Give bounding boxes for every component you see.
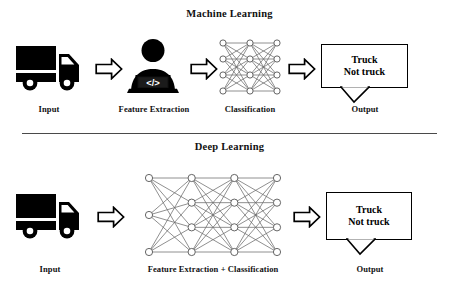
deep-learning-title: Deep Learning [0,141,459,152]
section-divider [22,133,437,134]
output-speech-box: Truck Not truck [321,44,408,88]
output-line-2: Not truck [344,66,385,78]
neural-network-icon [218,38,282,100]
svg-text:</>: </> [146,77,160,88]
arrow-right-icon [95,58,123,84]
figure-canvas: Machine Learning </> [0,0,459,289]
output-line-1: Truck [352,54,378,66]
network-edges [223,43,277,91]
arrow-right-icon [293,206,321,232]
stage-label-input-dl: Input [0,264,100,274]
arrow-right-icon [288,58,316,84]
output-line-1: Truck [356,204,382,216]
truck-icon [14,42,84,96]
output-line-2: Not truck [348,216,389,228]
truck-icon [14,190,84,244]
stage-label-feature-extraction-classification-dl: Feature Extraction + Classification [128,264,298,274]
stage-label-output-dl: Output [322,264,418,274]
output-speech-box: Truck Not truck [326,192,412,240]
arrow-right-icon [97,206,125,232]
stage-label-output-ml: Output [316,104,414,114]
stage-label-classification-ml: Classification [204,104,296,114]
speech-box-tail-icon [346,238,376,260]
person-laptop-code-icon: </> [122,38,184,98]
arrow-right-icon [190,58,218,84]
network-nodes [220,40,280,94]
stage-label-feature-extraction-ml: Feature Extraction [96,104,212,114]
machine-learning-title: Machine Learning [0,8,459,19]
deep-neural-network-icon [143,172,283,262]
network-edges [149,178,277,252]
stage-label-input-ml: Input [0,104,98,114]
